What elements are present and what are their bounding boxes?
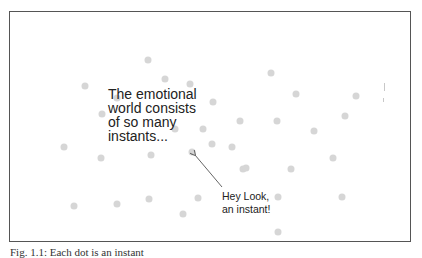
main-statement-line: world consists: [108, 101, 218, 115]
figure-caption: Fig. 1.1: Each dot is an instant: [10, 246, 144, 258]
main-statement-line: of so many: [108, 115, 218, 129]
callout-line: Hey Look,: [222, 190, 270, 203]
main-statement-line: instants...: [108, 129, 218, 143]
stray-mark: [384, 83, 385, 91]
main-statement-line: The emotional: [108, 87, 218, 101]
main-statement: The emotional world consists of so many …: [108, 87, 218, 143]
callout-label: Hey Look, an instant!: [222, 190, 270, 216]
callout-line: an instant!: [222, 203, 270, 216]
stray-mark: [383, 98, 384, 102]
